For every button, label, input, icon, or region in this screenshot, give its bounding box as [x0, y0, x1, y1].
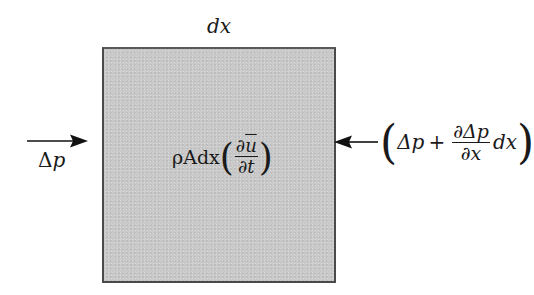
open-paren: (	[220, 138, 234, 176]
acceleration-fraction: ∂u ∂t	[235, 137, 258, 176]
fraction-denominator: ∂x	[461, 143, 482, 163]
left-force-arrow-icon	[27, 135, 88, 148]
inertia-term: ρAdx ( ∂u ∂t )	[172, 137, 273, 176]
pressure-gradient-fraction: ∂Δp ∂x	[452, 122, 490, 163]
dx-term: dx	[493, 130, 517, 154]
plus-sign: +	[428, 130, 445, 154]
close-paren: )	[259, 138, 273, 176]
right-force-label: ( Δp + ∂Δp ∂x dx )	[380, 120, 534, 164]
fraction-numerator: ∂u	[235, 137, 258, 157]
open-paren: (	[380, 119, 397, 165]
right-force-arrow-icon	[334, 136, 378, 149]
fraction-denominator: ∂t	[238, 157, 255, 176]
pressure-var: p	[52, 148, 65, 172]
close-paren: )	[517, 119, 534, 165]
fraction-numerator: ∂Δp	[452, 122, 490, 143]
delta-symbol: Δ	[38, 148, 52, 172]
inertia-prefix: ρAdx	[172, 146, 220, 168]
left-force-label: Δp	[38, 148, 65, 172]
pressure-term: Δp	[397, 130, 424, 154]
